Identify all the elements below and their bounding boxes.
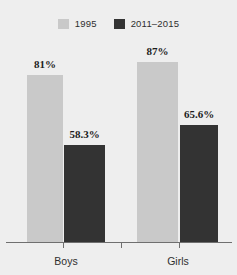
- x-axis-line: [6, 242, 232, 243]
- bar-chart: 1995 2011–2015 81% 58.3% 87% 65.6% Boys …: [0, 0, 237, 275]
- bar-label-boys-2011-2015: 58.3%: [60, 128, 109, 140]
- axis-tick-3: [179, 243, 180, 248]
- plot-area: 81% 58.3% 87% 65.6% Boys Girls: [0, 0, 237, 275]
- bar-girls-2011-2015: [180, 125, 218, 243]
- axis-tick-1: [63, 243, 64, 248]
- axis-tick-2: [121, 243, 122, 248]
- category-label-girls: Girls: [148, 255, 208, 267]
- bar-boys-1995: [27, 75, 63, 243]
- bar-boys-2011-2015: [64, 145, 105, 243]
- bar-label-boys-1995: 81%: [27, 58, 63, 70]
- bar-label-girls-1995: 87%: [137, 45, 178, 57]
- bar-label-girls-2011-2015: 65.6%: [174, 108, 224, 120]
- bar-girls-1995: [137, 62, 178, 243]
- category-label-boys: Boys: [36, 255, 96, 267]
